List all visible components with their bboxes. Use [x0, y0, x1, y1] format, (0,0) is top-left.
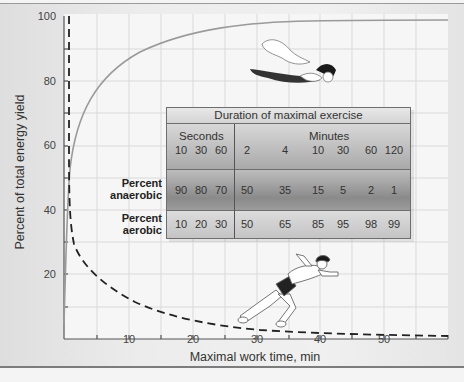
anaerobic-cell: 15 — [306, 184, 330, 196]
y-tick-60: 60 — [30, 139, 56, 151]
y-tick-100: 100 — [30, 10, 56, 22]
seconds-group-label: Seconds — [179, 130, 224, 142]
chart-figure: 100 80 60 40 20 10 20 30 40 50 Percent o… — [0, 3, 464, 368]
y-tick-20: 20 — [30, 268, 56, 280]
y-tick-80: 80 — [30, 75, 56, 87]
duration-cell: 2 — [235, 144, 259, 156]
table-title: Duration of maximal exercise — [167, 108, 410, 124]
anaerobic-cell: 2 — [359, 184, 383, 196]
duration-cell: 30 — [331, 144, 355, 156]
x-tick-50: 50 — [369, 333, 399, 345]
x-axis-label: Maximal work time, min — [150, 350, 360, 364]
x-tick-30: 30 — [242, 333, 272, 345]
x-tick-20: 20 — [178, 333, 208, 345]
anaerobic-cell: 35 — [273, 184, 297, 196]
aerobic-cell: 30 — [209, 218, 233, 230]
aerobic-cell: 99 — [382, 218, 406, 230]
anaerobic-cell: 1 — [382, 184, 406, 196]
row-label-anaerobic: Percent anaerobic — [106, 177, 162, 201]
duration-cell: 60 — [209, 144, 233, 156]
minutes-group-label: Minutes — [309, 130, 349, 142]
anaerobic-cell: 5 — [331, 184, 355, 196]
table-duration-row: Seconds Minutes 10 30 60 2 4 10 30 60 12… — [167, 124, 410, 170]
duration-table: Duration of maximal exercise Seconds Min… — [166, 107, 411, 239]
aerobic-cell: 95 — [331, 218, 355, 230]
y-tick-40: 40 — [30, 204, 56, 216]
table-aerobic-row: 10 20 30 50 65 85 95 98 99 — [167, 211, 410, 238]
x-tick-10: 10 — [114, 333, 144, 345]
aerobic-cell: 85 — [306, 218, 330, 230]
duration-cell: 4 — [273, 144, 297, 156]
aerobic-cell: 65 — [273, 218, 297, 230]
anaerobic-cell: 70 — [209, 184, 233, 196]
y-axis-label: Percent of total energy yield — [13, 77, 29, 267]
anaerobic-cell: 50 — [235, 184, 259, 196]
aerobic-cell: 98 — [359, 218, 383, 230]
aerobic-cell: 50 — [235, 218, 259, 230]
duration-cell: 60 — [359, 144, 383, 156]
x-tick-40: 40 — [305, 333, 335, 345]
duration-cell: 120 — [382, 144, 406, 156]
table-anaerobic-row: 90 80 70 50 35 15 5 2 1 — [167, 170, 410, 211]
duration-cell: 10 — [306, 144, 330, 156]
row-label-aerobic: Percent aerobic — [106, 212, 162, 236]
seconds-minutes-divider — [234, 124, 235, 238]
